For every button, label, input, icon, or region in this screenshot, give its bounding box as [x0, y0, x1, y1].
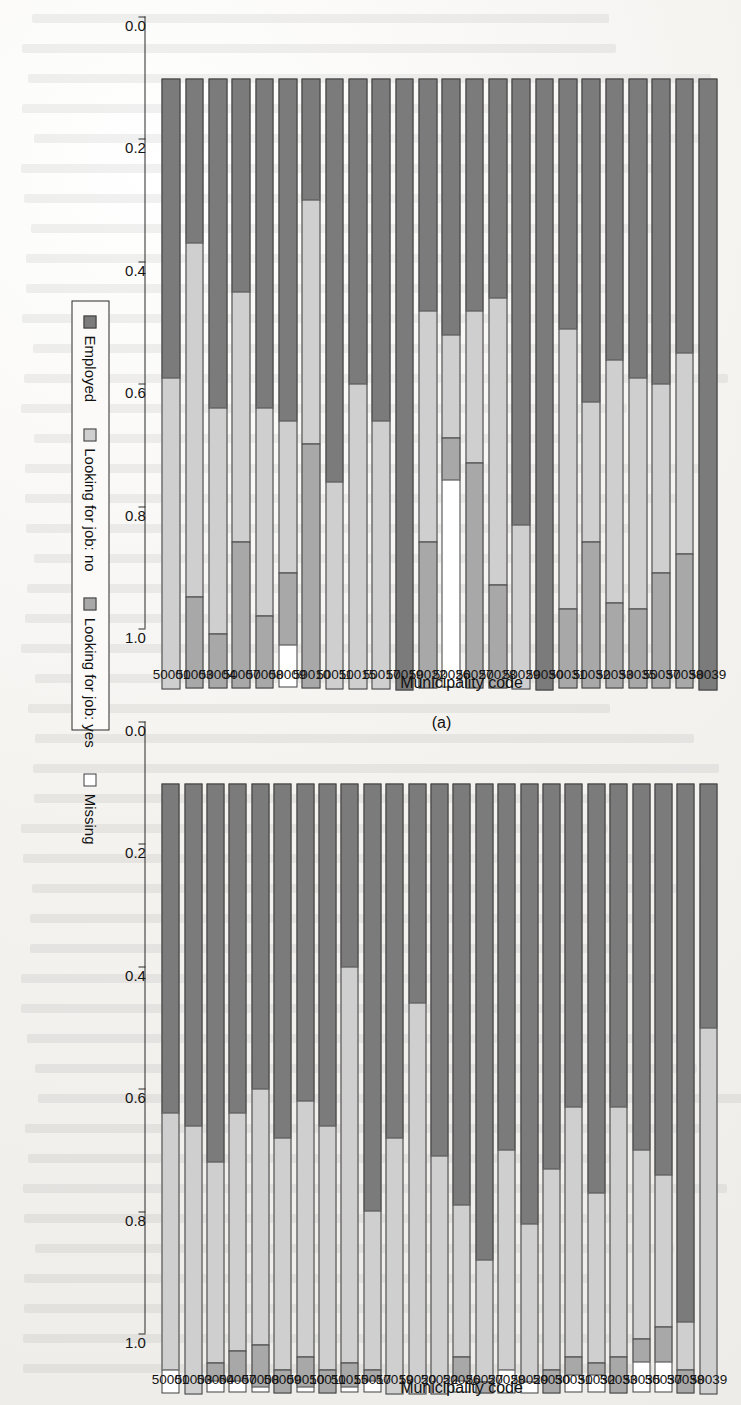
bar-50008 [251, 783, 269, 1395]
bar-segment-looking-for-job-yes [296, 1356, 314, 1387]
bar-50015 [348, 78, 367, 690]
bar-50037 [651, 78, 670, 690]
bar-segment-looking-for-job-no [587, 1192, 605, 1363]
bar-segment-looking-for-job-no [497, 1149, 515, 1369]
bar-segment-looking-for-job-no [208, 407, 227, 633]
bar-segment-looking-for-job-yes [609, 1356, 627, 1393]
bar-segment-missing [654, 1361, 672, 1392]
bar-segment-employed [185, 78, 204, 243]
bar-segment-employed [452, 783, 470, 1205]
bar-segment-looking-for-job-no [408, 1002, 426, 1394]
bar-segment-looking-for-job-yes [273, 1369, 291, 1393]
bar-50030 [542, 783, 560, 1395]
bar-50003 [185, 78, 204, 690]
axis-tick-label: 0.0 [125, 721, 146, 738]
bar-50008 [255, 78, 274, 690]
bar-50033 [609, 783, 627, 1395]
bar-segment-employed [278, 78, 297, 421]
bar-segment-missing [206, 1380, 224, 1392]
bar-segment-missing [564, 1374, 582, 1392]
bar-segment-looking-for-job-no [488, 297, 507, 585]
bar-segment-employed [497, 783, 515, 1150]
axis-tick-label: 1.0 [125, 628, 146, 645]
bar-segment-looking-for-job-no [558, 328, 577, 610]
bar-50030 [535, 78, 554, 690]
bar-segment-looking-for-job-yes [654, 1326, 672, 1363]
bar-50027 [465, 78, 484, 690]
bar-50022 [430, 783, 448, 1395]
bar-50032 [587, 783, 605, 1395]
bar-segment-looking-for-job-yes [465, 462, 484, 688]
bar-segment-employed [371, 78, 390, 421]
bar-50022 [418, 78, 437, 690]
bar-segment-looking-for-job-no [675, 352, 694, 554]
figure-container: EmployedLooking for job: noLooking for j… [0, 0, 741, 1405]
bar-segment-looking-for-job-no [296, 1100, 314, 1357]
bar-segment-looking-for-job-yes [318, 1369, 336, 1393]
bar-segment-missing [161, 1369, 179, 1393]
bar-segment-looking-for-job-yes [278, 572, 297, 645]
bar-50028 [488, 78, 507, 690]
bar-segment-looking-for-job-yes [206, 1362, 224, 1380]
bar-segment-looking-for-job-yes [675, 553, 694, 688]
bar-50003 [184, 783, 202, 1395]
bar-segment-looking-for-job-yes [231, 541, 250, 688]
bar-segment-employed [301, 78, 320, 200]
bar-segment-missing [363, 1380, 381, 1392]
bar-50027 [475, 783, 493, 1395]
bar-segment-missing [441, 479, 460, 687]
bar-segment-looking-for-job-no [363, 1210, 381, 1369]
panel-a: 0.00.20.40.60.81.0 500015000350004500075… [0, 0, 741, 700]
bar-segment-employed [587, 783, 605, 1193]
bar-50039 [698, 78, 717, 690]
panel-a-plot-area [159, 78, 719, 690]
bar-segment-employed [340, 783, 358, 967]
bar-segment-looking-for-job-yes [185, 596, 204, 688]
bar-segment-employed [228, 783, 246, 1113]
bar-segment-looking-for-job-yes [587, 1362, 605, 1374]
bar-segment-missing [632, 1361, 650, 1392]
bar-segment-looking-for-job-yes [301, 443, 320, 688]
bar-segment-looking-for-job-no [255, 407, 274, 615]
bar-segment-looking-for-job-no [161, 1112, 179, 1369]
bar-segment-employed [699, 783, 717, 1028]
bar-segment-employed [654, 783, 672, 1175]
axis-tick-label: 0.4 [125, 966, 146, 983]
axis-tick-label: 0.8 [125, 1211, 146, 1228]
bar-segment-looking-for-job-no [605, 359, 624, 604]
panel-b-axis-title: Municipality code [400, 1378, 523, 1396]
bar-segment-employed [430, 783, 448, 1156]
axis-spine [144, 721, 145, 1333]
bar-segment-looking-for-job-yes [605, 602, 624, 688]
axis-tick-label: 0.0 [125, 16, 146, 33]
bar-segment-looking-for-job-no [185, 242, 204, 597]
bar-segment-looking-for-job-yes [452, 1356, 470, 1380]
bar-segment-employed [418, 78, 437, 311]
bar-segment-looking-for-job-yes [208, 633, 227, 688]
bar-segment-looking-for-job-no [441, 334, 460, 438]
bar-50015 [340, 783, 358, 1395]
bar-segment-employed [475, 783, 493, 1260]
bar-segment-employed [363, 783, 381, 1211]
bar-segment-looking-for-job-no [632, 1149, 650, 1339]
bar-segment-employed [273, 783, 291, 1138]
bar-50004 [206, 783, 224, 1395]
bar-segment-looking-for-job-no [206, 1161, 224, 1363]
bar-segment-looking-for-job-yes [651, 572, 670, 688]
bar-segment-employed [408, 783, 426, 1003]
bar-segment-looking-for-job-no [184, 1125, 202, 1394]
bar-segment-employed [251, 783, 269, 1089]
bar-segment-looking-for-job-yes [632, 1338, 650, 1362]
axis-tick-label: 0.2 [125, 843, 146, 860]
panel-b: 0.00.20.40.60.81.0 500015000350004500075… [0, 705, 741, 1405]
bar-50001 [161, 78, 180, 690]
bar-segment-looking-for-job-no [430, 1155, 448, 1394]
bar-segment-looking-for-job-yes [558, 608, 577, 688]
bar-segment-employed [255, 78, 274, 408]
bar-segment-employed [564, 783, 582, 1107]
bar-50035 [628, 78, 647, 690]
bar-segment-looking-for-job-no [542, 1168, 560, 1370]
bar-50019 [385, 783, 403, 1395]
bar-50001 [161, 783, 179, 1395]
bar-50011 [325, 78, 344, 690]
